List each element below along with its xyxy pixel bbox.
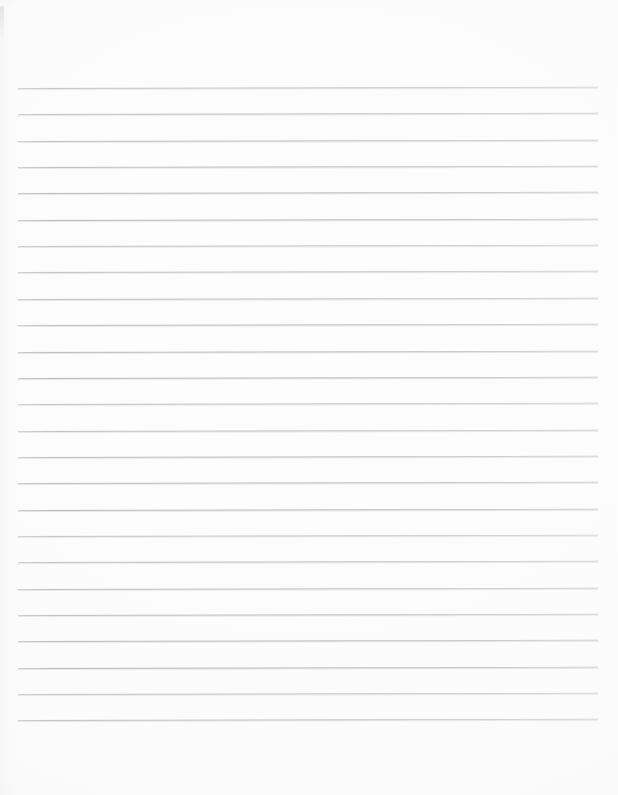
writing-area[interactable] — [18, 70, 598, 735]
scanned-paper-page — [0, 0, 618, 795]
